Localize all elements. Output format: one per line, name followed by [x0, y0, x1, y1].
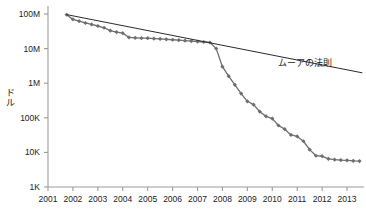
chart-container: ド ル 100M10M1M100K10K1K200120022003200420… — [0, 0, 366, 218]
data-point-marker — [345, 158, 349, 162]
data-point-marker — [90, 22, 94, 26]
data-point-marker — [152, 36, 156, 40]
data-point-marker — [77, 19, 81, 23]
data-point-marker — [177, 38, 181, 42]
data-point-marker — [114, 30, 118, 34]
data-point-marker — [320, 154, 324, 158]
data-point-marker — [158, 37, 162, 41]
data-point-marker — [357, 159, 361, 163]
moores-law-annotation: ムーアの法則 — [278, 56, 332, 69]
data-point-marker — [339, 158, 343, 162]
data-point-marker — [102, 26, 106, 30]
data-point-marker — [96, 24, 100, 28]
data-point-marker — [146, 36, 150, 40]
data-point-marker — [83, 21, 87, 25]
data-point-marker — [351, 159, 355, 163]
data-point-marker — [183, 39, 187, 43]
data-point-marker — [133, 36, 137, 40]
data-point-marker — [332, 157, 336, 161]
data-point-marker — [108, 29, 112, 33]
data-point-marker — [139, 36, 143, 40]
series-line-cost-curve — [67, 15, 360, 161]
data-point-marker — [164, 37, 168, 41]
plot-area — [0, 0, 366, 218]
data-point-marker — [171, 38, 175, 42]
data-point-marker — [326, 157, 330, 161]
